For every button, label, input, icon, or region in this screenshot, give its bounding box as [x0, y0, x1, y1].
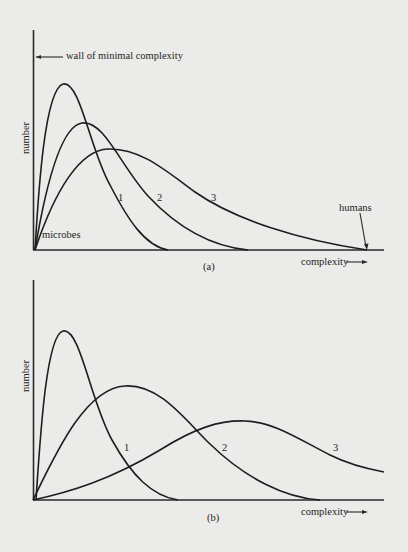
- panel-a-complexity-arrow-icon: [346, 260, 368, 264]
- panel-b-x-axis-label: complexity: [301, 507, 348, 518]
- panel-a-x-axis-label: complexity: [301, 257, 348, 268]
- panel-a-curve-1: [35, 84, 168, 250]
- panel-b-caption: (b): [207, 513, 219, 524]
- panel-b-curve-3: [33, 421, 384, 500]
- microbes-label: microbes: [42, 230, 81, 241]
- panel-b-complexity-arrow-icon: [346, 510, 368, 514]
- panel-b-curve-1-label: 1: [124, 443, 129, 454]
- panel-a-curve-2-label: 2: [157, 193, 162, 204]
- diagram-canvas: [0, 0, 408, 552]
- panel-a-caption: (a): [203, 262, 215, 273]
- panel-b-curve-2-label: 2: [222, 443, 227, 454]
- wall-label: wall of minimal complexity: [66, 51, 183, 62]
- figure: wall of minimal complexity number microb…: [0, 0, 408, 552]
- humans-label: humans: [339, 203, 372, 214]
- panel-b-curve-3-label: 3: [333, 443, 338, 454]
- panel-b-curve-2: [33, 386, 320, 500]
- panel-b-y-axis-label: number: [21, 360, 32, 392]
- wall-arrow-icon: [36, 55, 63, 59]
- panel-a-curve-3-label: 3: [211, 193, 216, 204]
- panel-b-plot: [33, 280, 384, 514]
- panel-b-curve-1: [36, 331, 178, 500]
- panel-a-y-axis-label: number: [21, 122, 32, 154]
- panel-a-curve-3: [35, 149, 367, 250]
- humans-arrow-icon: [360, 213, 369, 250]
- panel-a-curve-1-label: 1: [118, 193, 123, 204]
- panel-a-plot: [33, 30, 384, 264]
